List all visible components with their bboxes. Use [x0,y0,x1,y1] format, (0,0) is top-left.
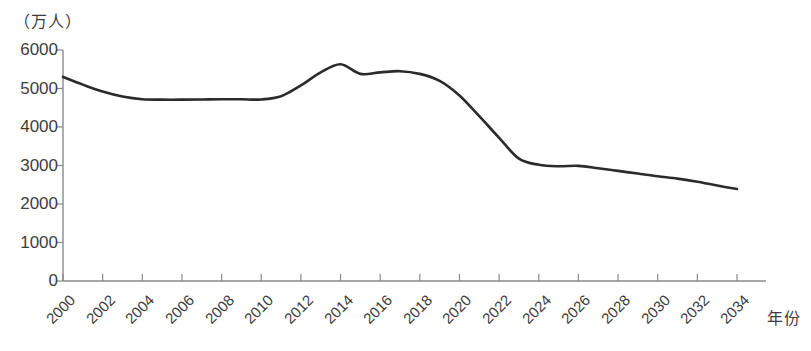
x-tick-label: 2000 [33,292,78,337]
x-tick-label: 2022 [469,292,514,337]
x-tick-label: 2032 [667,292,712,337]
x-tick-label: 2024 [509,292,554,337]
x-tick-label: 2004 [112,292,157,337]
x-tick-label: 2020 [430,292,475,337]
x-tick-label: 2030 [628,292,673,337]
x-tick-label: 2026 [548,292,593,337]
x-tick-label: 2018 [390,292,435,337]
x-tick-label: 2008 [192,292,237,337]
x-tick-label: 2002 [73,292,118,337]
x-tick-label: 2012 [271,292,316,337]
line-chart: （万人） 年份 0100020003000400050006000 200020… [0,0,811,351]
x-tick-label: 2010 [231,292,276,337]
x-tick-label: 2016 [350,292,395,337]
x-tick-label: 2034 [707,292,752,337]
x-axis-tick-labels: 2000200220042006200820102012201420162018… [0,0,811,351]
x-tick-label: 2028 [588,292,633,337]
x-tick-label: 2014 [311,292,356,337]
x-tick-label: 2006 [152,292,197,337]
